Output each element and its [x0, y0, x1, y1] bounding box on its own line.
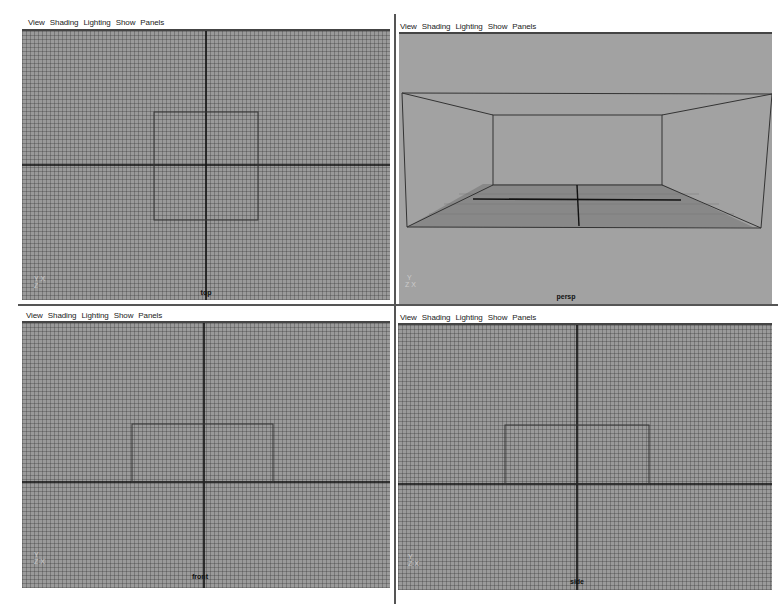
menu-panels[interactable]: Panels [512, 22, 536, 31]
room-back-wall [493, 115, 662, 185]
menu-show[interactable]: Show [114, 311, 134, 320]
menu-view[interactable]: View [26, 311, 43, 320]
menu-view[interactable]: View [400, 22, 417, 31]
viewport-top[interactable]: Y XZ top [22, 29, 390, 300]
viewport-front[interactable]: YZ X front [22, 321, 390, 588]
camera-label: side [570, 578, 584, 585]
menu-shading[interactable]: Shading [422, 313, 451, 322]
menu-shading[interactable]: Shading [48, 311, 77, 320]
scene-front [22, 323, 390, 588]
camera-label: persp [556, 293, 575, 300]
camera-label: top [201, 289, 212, 296]
scene-side [398, 325, 772, 590]
panel-menubar: ViewShadingLightingShowPanels [26, 311, 167, 320]
scene-top [22, 31, 390, 300]
menu-show[interactable]: Show [488, 313, 508, 322]
panel-divider-vertical[interactable] [394, 14, 396, 604]
menu-show[interactable]: Show [488, 22, 508, 31]
menu-shading[interactable]: Shading [50, 18, 79, 27]
camera-label: front [192, 573, 208, 580]
room-wireframe [132, 424, 273, 482]
floor-grid [407, 184, 753, 227]
panel-menubar: ViewShadingLightingShowPanels [28, 18, 169, 27]
menu-panels[interactable]: Panels [140, 18, 164, 27]
axis-gizmo-icon: YZ X [405, 274, 416, 288]
menu-show[interactable]: Show [116, 18, 136, 27]
menu-panels[interactable]: Panels [512, 313, 536, 322]
menu-panels[interactable]: Panels [138, 311, 162, 320]
panel-menubar: ViewShadingLightingShowPanels [400, 22, 541, 31]
axis-gizmo-icon: YZ X [34, 551, 45, 565]
panel-divider-horizontal[interactable] [18, 304, 778, 306]
axis-gizmo-icon: Y XZ [34, 275, 45, 289]
panel-menubar: ViewShadingLightingShowPanels [400, 313, 541, 322]
scene-persp [399, 34, 772, 304]
menu-lighting[interactable]: Lighting [81, 311, 108, 320]
menu-shading[interactable]: Shading [422, 22, 451, 31]
menu-view[interactable]: View [28, 18, 45, 27]
viewport-side[interactable]: YZ X side [398, 323, 772, 590]
axis-gizmo-icon: YZ X [408, 553, 419, 567]
viewport-persp[interactable]: YZ X persp [399, 32, 772, 304]
menu-lighting[interactable]: Lighting [83, 18, 110, 27]
menu-lighting[interactable]: Lighting [455, 313, 482, 322]
menu-lighting[interactable]: Lighting [455, 22, 482, 31]
menu-view[interactable]: View [400, 313, 417, 322]
